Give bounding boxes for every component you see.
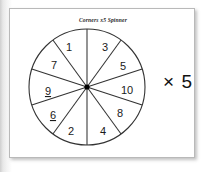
- segment-label-4: 4: [100, 125, 106, 137]
- segment-label-7: 7: [51, 59, 57, 71]
- segment-label-9: 9: [45, 85, 51, 97]
- spinner-worksheet-screenshot: Corners x5 Spinner 1 3 5: [0, 0, 208, 172]
- multiplier-label: × 5: [156, 71, 200, 93]
- segment-label-2: 2: [68, 125, 74, 137]
- segment-label-1: 1: [66, 41, 72, 53]
- segment-label-10: 10: [121, 84, 133, 96]
- segment-label-8: 8: [117, 107, 123, 119]
- spinner-container: 1 3 5 10 8 4 2 6 9 7: [23, 20, 151, 150]
- spinner-center-hub: [84, 84, 89, 89]
- segment-label-5: 5: [120, 60, 126, 72]
- segment-label-6: 6: [50, 109, 56, 121]
- spinner-diagram: 1 3 5 10 8 4 2 6 9 7: [23, 20, 151, 150]
- worksheet-card: Corners x5 Spinner 1 3 5: [9, 8, 195, 158]
- segment-label-3: 3: [102, 41, 108, 53]
